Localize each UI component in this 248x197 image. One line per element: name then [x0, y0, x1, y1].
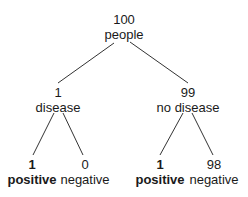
edge-nodisease-positive [160, 113, 183, 155]
node-label: disease [36, 100, 81, 115]
node-nodisease-positive: 1 positive [135, 157, 184, 187]
edge-nodisease-negative [192, 113, 213, 155]
node-no-disease: 99 no disease [157, 85, 220, 115]
node-count: 1 [36, 85, 81, 100]
node-label: positive [135, 172, 184, 187]
edge-disease-positive [33, 113, 54, 155]
node-label: people [104, 27, 143, 42]
edge-root-disease [58, 43, 114, 83]
node-count: 0 [60, 157, 109, 172]
edge-root-no-disease [130, 42, 188, 83]
node-label: no disease [157, 100, 220, 115]
node-label: negative [60, 172, 109, 187]
node-disease: 1 disease [36, 85, 81, 115]
node-disease-positive: 1 positive [7, 157, 56, 187]
node-disease-negative: 0 negative [60, 157, 109, 187]
node-count: 99 [157, 85, 220, 100]
node-count: 98 [189, 157, 238, 172]
node-root: 100 people [104, 12, 143, 42]
node-label: positive [7, 172, 56, 187]
node-nodisease-negative: 98 negative [189, 157, 238, 187]
node-count: 100 [104, 12, 143, 27]
edge-disease-negative [63, 113, 83, 155]
node-count: 1 [7, 157, 56, 172]
node-count: 1 [135, 157, 184, 172]
node-label: negative [189, 172, 238, 187]
